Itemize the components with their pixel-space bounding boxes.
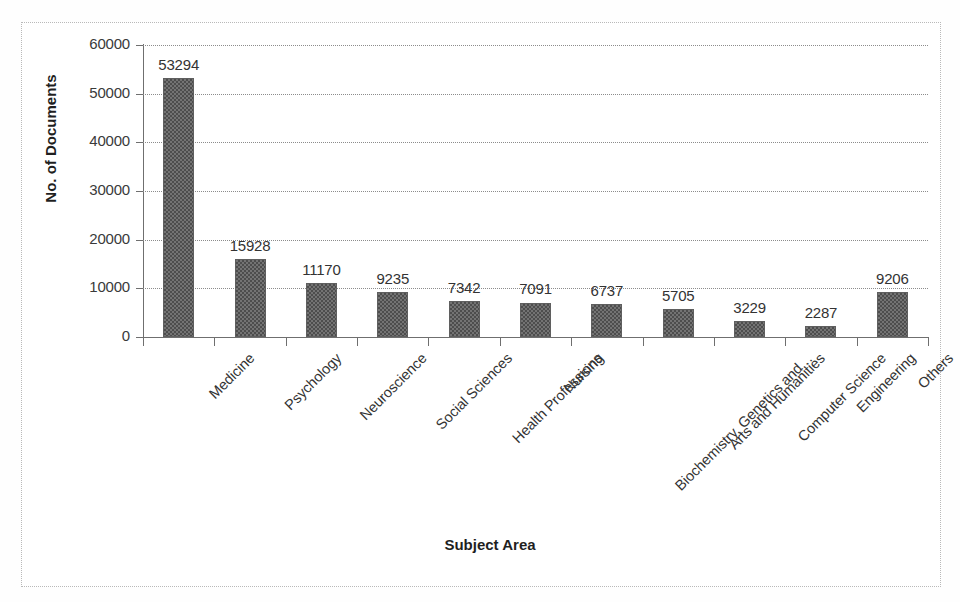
bar [235, 259, 266, 337]
x-tick-mark-4 [428, 337, 429, 346]
y-tick-label-60000: 60000 [44, 35, 130, 52]
x-tick-mark-8 [714, 337, 715, 346]
bar [520, 303, 551, 338]
y-tick-label-0: 0 [44, 327, 130, 344]
bar [591, 304, 622, 337]
x-tick-mark-5 [500, 337, 501, 346]
y-tick-label-40000: 40000 [44, 132, 130, 149]
bar [306, 283, 337, 337]
x-tick-mark-11 [928, 337, 929, 346]
x-tick-mark-0 [143, 337, 144, 346]
x-tick-mark-10 [857, 337, 858, 346]
gridline-0 [143, 337, 928, 338]
y-tick-label-30000: 30000 [44, 181, 130, 198]
bar [877, 292, 908, 337]
bar [805, 326, 836, 337]
bar [163, 78, 194, 337]
x-axis-title: Subject Area [390, 536, 590, 553]
y-tick-label-10000: 10000 [44, 278, 130, 295]
y-tick-label-20000: 20000 [44, 230, 130, 247]
x-tick-mark-1 [214, 337, 215, 346]
bar-value-label: 15928 [205, 237, 295, 254]
bar [734, 321, 765, 337]
bar [663, 309, 694, 337]
bar [377, 292, 408, 337]
bar-value-label: 53294 [134, 56, 224, 73]
x-tick-mark-6 [571, 337, 572, 346]
bar-value-label: 9206 [847, 270, 937, 287]
gridline-60000 [143, 45, 928, 46]
y-tick-label-50000: 50000 [44, 84, 130, 101]
x-tick-mark-3 [357, 337, 358, 346]
gridline-30000 [143, 191, 928, 192]
x-tick-mark-9 [785, 337, 786, 346]
chart-figure: No. of Documents 01000020000300004000050… [0, 0, 960, 602]
gridline-40000 [143, 142, 928, 143]
x-tick-mark-2 [286, 337, 287, 346]
bar-value-label: 2287 [776, 304, 866, 321]
bar [449, 301, 480, 337]
x-tick-mark-7 [643, 337, 644, 346]
gridline-50000 [143, 94, 928, 95]
